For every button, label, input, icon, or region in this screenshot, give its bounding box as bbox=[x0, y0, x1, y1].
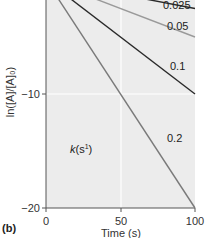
xtick-0: 0 bbox=[43, 215, 49, 227]
legend-title: k(s1) bbox=[70, 143, 92, 155]
ytick-m20: −20 bbox=[21, 202, 40, 214]
x-axis-label: Time (s) bbox=[101, 227, 141, 238]
panel-label: (b) bbox=[2, 222, 16, 234]
label-0025: 0.025 bbox=[163, 0, 191, 11]
label-005: 0.05 bbox=[167, 20, 188, 32]
y-axis-label: ln([A]/[A]₀) bbox=[4, 67, 16, 117]
xtick-100: 100 bbox=[186, 215, 204, 227]
label-01: 0.1 bbox=[170, 60, 185, 72]
label-02: 0.2 bbox=[167, 132, 182, 144]
xtick-50: 50 bbox=[115, 215, 127, 227]
ytick-m10: −10 bbox=[21, 88, 40, 100]
chart: 0.025 0.05 0.1 0.2 k(s1) −10 −20 0 50 10… bbox=[0, 0, 206, 238]
